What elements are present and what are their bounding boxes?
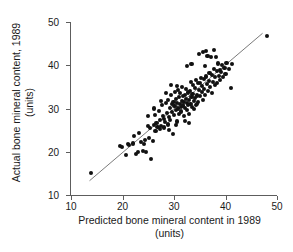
x-tick-label: 10 [65, 201, 76, 212]
data-point [223, 72, 227, 76]
data-point [222, 66, 226, 70]
x-tick [123, 196, 124, 200]
y-tick-label: 20 [48, 146, 59, 157]
plot-area: 1020304050 1020304050 [71, 22, 277, 195]
data-point [136, 150, 140, 154]
data-point [144, 150, 148, 154]
y-tick: 40 [66, 65, 70, 66]
data-point [124, 153, 128, 157]
x-tick-label: 50 [271, 201, 282, 212]
data-point [195, 102, 199, 106]
x-tick [226, 196, 227, 200]
y-tick: 30 [66, 109, 70, 110]
y-tick-label: 50 [48, 17, 59, 28]
data-point [208, 85, 212, 89]
x-tick [71, 196, 72, 200]
data-point [164, 91, 168, 95]
data-point [179, 109, 183, 113]
y-axis-title: Actual bone mineral content, 1989 (units… [0, 0, 46, 205]
x-tick-label: 30 [168, 201, 179, 212]
chart-figure: Actual bone mineral content, 1989 (units… [0, 0, 293, 252]
x-tick-label: 20 [117, 201, 128, 212]
data-point [166, 98, 170, 102]
x-axis-title-line2: (units) [46, 227, 293, 240]
data-point [214, 55, 218, 59]
data-point [224, 61, 228, 65]
data-point [157, 109, 161, 113]
data-point [153, 113, 157, 117]
data-point [131, 141, 135, 145]
x-axis-title: Predicted bone mineral content in 1989 (… [46, 214, 293, 240]
data-point [151, 139, 155, 143]
data-point [204, 49, 208, 53]
x-axis-title-line1: Predicted bone mineral content in 1989 [46, 214, 293, 227]
x-tick [174, 196, 175, 200]
data-point [227, 67, 231, 71]
data-point [159, 99, 163, 103]
y-tick-label: 30 [48, 103, 59, 114]
y-axis-title-line1: Actual bone mineral content, 1989 [11, 23, 24, 182]
data-point [193, 86, 197, 90]
y-axis-title-line2: (units) [23, 23, 36, 182]
data-point [142, 142, 146, 146]
data-point [167, 128, 171, 132]
y-tick: 20 [66, 152, 70, 153]
x-tick-label: 40 [220, 201, 231, 212]
y-tick: 50 [66, 22, 70, 23]
y-tick-label: 40 [48, 60, 59, 71]
x-tick [277, 196, 278, 200]
data-point [168, 106, 172, 110]
data-point [229, 86, 233, 90]
y-tick-label: 10 [48, 190, 59, 201]
data-point [169, 83, 173, 87]
y-tick: 10 [66, 195, 70, 196]
data-point [166, 122, 170, 126]
data-point [160, 103, 164, 107]
